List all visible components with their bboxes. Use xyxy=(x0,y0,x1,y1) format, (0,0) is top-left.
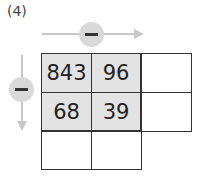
answer-cell-r2c3[interactable] xyxy=(140,92,192,132)
minus-icon xyxy=(85,33,98,36)
answer-cell-r1c3[interactable] xyxy=(140,53,192,93)
minus-icon xyxy=(15,88,28,91)
grid-cell-r2c1: 68 xyxy=(41,92,92,132)
right-arrow-icon xyxy=(134,29,144,39)
grid-cell-r1c2: 96 xyxy=(91,53,142,93)
vertical-operator-badge xyxy=(9,77,34,102)
answer-cell-r3c2[interactable] xyxy=(91,130,142,170)
grid-cell-r1c1: 843 xyxy=(41,53,92,93)
horizontal-operator-badge xyxy=(79,22,104,47)
problem-label: (4) xyxy=(7,3,27,19)
grid-cell-r2c2: 39 xyxy=(91,92,142,132)
down-arrow-icon xyxy=(17,121,27,131)
answer-cell-r3c1[interactable] xyxy=(41,130,92,170)
